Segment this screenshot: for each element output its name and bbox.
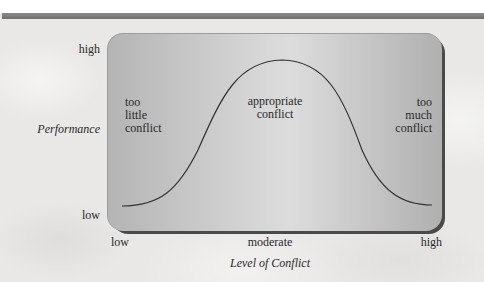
y-axis-high-label: high <box>60 43 100 56</box>
x-axis-title: Level of Conflict <box>210 257 330 270</box>
x-axis-high-label: high <box>400 236 442 249</box>
annotation-too-little-conflict: too little conflict <box>125 96 162 135</box>
x-axis-low-label: low <box>111 236 129 249</box>
annotation-line: conflict <box>125 122 162 135</box>
annotation-line: conflict <box>380 122 432 135</box>
y-axis-title: Performance <box>20 123 100 136</box>
annotation-line: conflict <box>235 108 315 121</box>
annotation-too-much-conflict: too much conflict <box>380 96 432 135</box>
annotation-appropriate-conflict: appropriate conflict <box>235 95 315 121</box>
x-axis-moderate-label: moderate <box>230 236 310 249</box>
y-axis-low-label: low <box>60 209 100 222</box>
